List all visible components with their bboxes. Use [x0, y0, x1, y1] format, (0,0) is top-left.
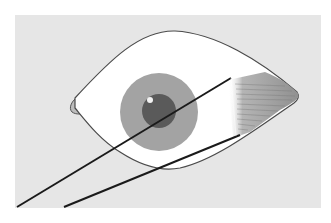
eye-illustration [0, 0, 331, 223]
eye-highlight [147, 97, 153, 103]
pupil [142, 94, 176, 128]
